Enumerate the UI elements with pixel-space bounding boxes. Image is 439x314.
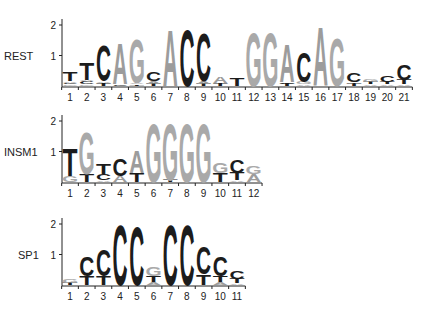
- x-tick-label: 11: [232, 291, 243, 302]
- logo-letter-a: A: [213, 75, 229, 84]
- logo-letter-c: C: [196, 240, 211, 283]
- x-tick-label: 2: [84, 291, 90, 302]
- x-tick-label: 2: [84, 92, 90, 103]
- logo-letter-g: G: [179, 107, 195, 200]
- logo-letter-g: G: [145, 107, 161, 200]
- logo-letter-c: C: [113, 155, 128, 181]
- y-tick-label: 1: [50, 147, 56, 158]
- y-tick-label: 2: [50, 116, 56, 127]
- x-tick-label: 10: [215, 92, 227, 103]
- logo-letter-g: G: [196, 107, 212, 200]
- logo-letter-a: A: [280, 35, 295, 94]
- motif-label-rest: REST: [4, 50, 34, 62]
- logo-letter-c: C: [296, 44, 311, 91]
- sequence-logo-figure: REST 12123456789101112131415161718192021…: [0, 0, 439, 314]
- x-tick-label: 1: [67, 188, 73, 199]
- x-tick-label: 21: [398, 92, 410, 103]
- motif-label-insm1: INSM1: [4, 146, 38, 158]
- logo-letter-g: G: [363, 78, 379, 83]
- logo-letter-c: C: [179, 208, 194, 303]
- logo-letter-c: C: [96, 243, 111, 283]
- x-tick-label: 2: [84, 188, 90, 199]
- x-tick-label: 11: [232, 188, 243, 199]
- logo-letter-a: A: [129, 144, 144, 179]
- logo-letter-c: C: [129, 210, 144, 303]
- x-tick-label: 4: [117, 188, 123, 199]
- logo-letter-a: A: [163, 13, 178, 102]
- x-tick-label: 12: [248, 188, 260, 199]
- logo-letter-t: T: [229, 76, 245, 88]
- logo-letter-g: G: [145, 264, 161, 279]
- x-tick-label: 10: [215, 291, 227, 302]
- logo-letter-t: T: [79, 59, 94, 85]
- logo-letter-t: T: [62, 70, 77, 84]
- x-tick-label: 5: [134, 188, 140, 199]
- logo-letter-g: G: [246, 165, 262, 177]
- logo-letter-c: C: [396, 61, 411, 84]
- logo-panel-insm1: INSM1 12123456789101112GTTGACTACTAGTGGGT…: [4, 107, 262, 200]
- logo-letter-c: C: [113, 208, 128, 303]
- logo-letter-c: C: [213, 251, 228, 281]
- logo-letter-c: C: [380, 75, 396, 84]
- logo-letter-g: G: [212, 160, 228, 176]
- x-tick-label: 20: [382, 92, 394, 103]
- y-tick-label: 1: [50, 250, 56, 261]
- logo-letter-c: C: [229, 269, 244, 281]
- x-tick-label: 18: [348, 92, 360, 103]
- logo-panel-rest: REST 12123456789101112131415161718192021…: [4, 11, 412, 104]
- logo-letter-c: C: [146, 70, 161, 85]
- x-tick-label: 1: [67, 291, 73, 302]
- y-tick-label: 2: [50, 20, 56, 31]
- x-tick-label: 6: [151, 291, 157, 302]
- logo-letter-a: A: [313, 11, 328, 104]
- logo-letter-c: C: [196, 21, 211, 97]
- logo-letter-t: T: [62, 141, 77, 184]
- logo-letter-c: C: [179, 13, 194, 102]
- logo-panel-sp1: SP1 121234567891011TGTCTCCCATGCCTCATCATC: [18, 208, 245, 303]
- logo-letter-g: G: [79, 121, 95, 186]
- y-tick-label: 1: [50, 51, 56, 62]
- logo-letter-c: C: [346, 70, 361, 85]
- logo-letter-g: G: [246, 16, 262, 102]
- logo-letter-c: C: [163, 208, 178, 303]
- logo-letter-c: C: [79, 251, 94, 281]
- logo-letter-t: T: [96, 161, 112, 177]
- x-tick-label: 10: [215, 188, 227, 199]
- x-tick-label: 3: [101, 291, 107, 302]
- logo-letter-g: G: [129, 25, 145, 96]
- logo-letter-g: G: [162, 107, 178, 196]
- x-tick-label: 9: [201, 291, 207, 302]
- logo-letter-g: G: [329, 25, 345, 101]
- x-tick-label: 19: [365, 92, 377, 103]
- logo-letter-g: G: [62, 278, 78, 284]
- y-tick-label: 2: [50, 219, 56, 230]
- x-tick-label: 15: [298, 92, 310, 103]
- x-tick-label: 3: [101, 92, 107, 103]
- x-tick-label: 1: [67, 92, 73, 103]
- logo-letter-g: G: [262, 16, 278, 102]
- logo-letter-c: C: [96, 36, 111, 92]
- logo-letter-a: A: [113, 33, 128, 97]
- x-tick-label: 11: [232, 92, 243, 103]
- motif-label-sp1: SP1: [18, 249, 39, 261]
- logo-letter-c: C: [229, 156, 244, 177]
- x-tick-label: 3: [101, 188, 107, 199]
- x-tick-label: 6: [151, 92, 157, 103]
